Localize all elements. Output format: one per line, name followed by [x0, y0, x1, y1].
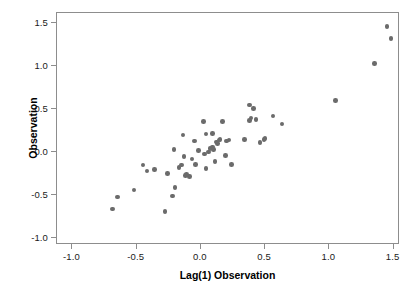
- y-axis-tick-label: 1.5: [34, 17, 48, 28]
- x-axis-title: Lag(1) Observation: [56, 269, 399, 281]
- x-axis-tick: [136, 244, 137, 249]
- x-axis-tick-label: 0.5: [257, 251, 271, 262]
- data-point: [204, 166, 209, 171]
- x-axis-tick-label: 0.0: [193, 251, 207, 262]
- data-point: [242, 137, 247, 142]
- data-point: [251, 106, 256, 111]
- x-axis-tick: [200, 244, 201, 249]
- data-point: [179, 163, 184, 168]
- y-axis-tick-label: -1.0: [31, 232, 48, 243]
- data-point: [201, 119, 206, 124]
- y-axis-tick: [51, 22, 56, 23]
- data-point: [224, 139, 229, 144]
- data-point: [192, 139, 197, 144]
- y-axis-tick: [51, 237, 56, 238]
- data-point: [190, 157, 195, 162]
- data-point: [223, 153, 228, 158]
- data-point: [145, 169, 150, 174]
- data-point: [249, 116, 254, 121]
- data-point: [206, 150, 211, 155]
- data-point: [280, 122, 285, 127]
- data-point: [210, 131, 215, 136]
- data-point: [215, 141, 220, 146]
- data-point: [132, 188, 137, 193]
- data-point: [152, 167, 157, 172]
- scatter-plot-figure: -1.0-0.50.00.51.01.5 -1.0-0.50.00.51.01.…: [0, 0, 415, 291]
- data-point: [263, 136, 268, 141]
- data-point: [254, 117, 259, 122]
- y-axis-tick: [51, 194, 56, 195]
- x-axis-tick: [393, 244, 394, 249]
- data-point: [115, 195, 120, 200]
- y-axis-tick-label: -0.5: [31, 189, 48, 200]
- data-point: [218, 137, 223, 142]
- y-axis-tick-label: 1.0: [34, 60, 48, 71]
- data-point: [333, 98, 338, 103]
- data-point: [372, 61, 377, 66]
- data-point: [172, 147, 177, 152]
- data-point: [184, 172, 189, 177]
- y-axis-tick: [51, 108, 56, 109]
- data-point: [389, 36, 394, 41]
- data-point: [173, 185, 178, 190]
- data-point: [385, 24, 390, 29]
- data-point: [211, 147, 216, 152]
- x-axis-tick-label: -0.5: [127, 251, 144, 262]
- y-axis-tick: [51, 65, 56, 66]
- data-point: [170, 194, 175, 199]
- data-point: [271, 114, 276, 119]
- plot-frame: [56, 12, 399, 244]
- x-axis-tick-label: 1.5: [386, 251, 400, 262]
- data-point: [196, 148, 201, 153]
- data-point: [165, 171, 170, 176]
- x-axis-tick: [328, 244, 329, 249]
- data-point: [220, 119, 225, 124]
- y-axis-title: Observation: [27, 97, 39, 158]
- data-point: [182, 154, 187, 159]
- y-axis-tick: [51, 151, 56, 152]
- data-point: [204, 132, 209, 137]
- data-points-layer: [57, 13, 398, 243]
- x-axis-tick-label: -1.0: [63, 251, 80, 262]
- data-point: [229, 162, 234, 167]
- x-axis-tick-label: 1.0: [322, 251, 336, 262]
- data-point: [193, 162, 198, 167]
- data-point: [181, 133, 186, 138]
- data-point: [163, 209, 168, 214]
- x-axis-tick: [71, 244, 72, 249]
- x-axis-tick: [264, 244, 265, 249]
- data-point: [141, 163, 146, 168]
- data-point: [110, 207, 115, 212]
- data-point: [213, 159, 218, 164]
